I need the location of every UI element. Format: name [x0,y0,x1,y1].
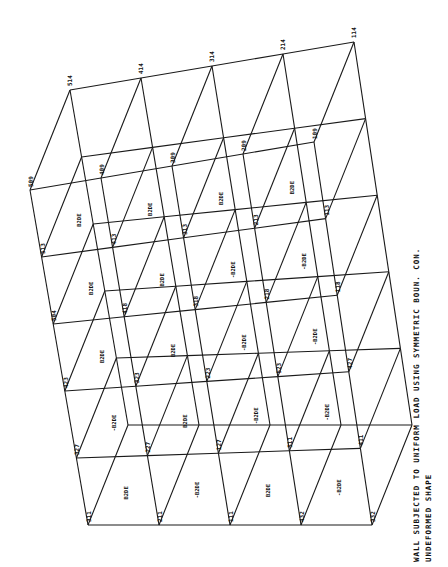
node-labels: 5144143142141145094093092091095134133132… [27,27,376,522]
svg-text:209: 209 [240,140,247,151]
svg-text:213: 213 [252,214,259,225]
svg-text:311: 311 [85,511,92,522]
svg-text:332: 332 [369,511,376,522]
svg-text:418: 418 [121,303,128,314]
svg-text:427: 427 [346,358,353,369]
svg-text:313: 313 [181,224,188,235]
svg-text:111: 111 [227,511,234,522]
svg-text:414: 414 [137,63,144,74]
svg-text:B2DE: B2DE [76,213,82,226]
svg-text:318: 318 [192,295,199,306]
svg-text:-B2DE: -B2DE [336,479,342,496]
svg-text:411: 411 [357,434,364,445]
svg-text:B2DE: B2DE [289,181,295,194]
svg-text:413: 413 [110,233,117,244]
figure-subcaption: UNDEFORMED SHAPE [424,474,433,562]
svg-text:223: 223 [204,367,211,378]
svg-text:B2DE: B2DE [159,273,165,286]
svg-text:423: 423 [62,377,69,388]
svg-text:211: 211 [156,511,163,522]
svg-text:-B2DE: -B2DE [111,415,117,432]
element-labels: B2DEB2DEB2DEB2DEB2DEB2DE-B2DE-B2DEB2DEB2… [76,181,341,499]
svg-text:B2DE: B2DE [100,350,106,363]
svg-text:B2DE: B2DE [265,484,271,497]
svg-text:-B2DE: -B2DE [253,408,259,425]
svg-text:114: 114 [350,27,357,38]
figure-caption: WALL SUBJECTED TO UNIFORM LOAD USING SYM… [412,248,421,562]
svg-text:127: 127 [215,439,222,450]
svg-text:B2DE: B2DE [88,282,94,295]
svg-text:-B2DE: -B2DE [324,404,330,421]
svg-text:409: 409 [98,164,105,175]
svg-text:227: 227 [144,441,151,452]
svg-text:432: 432 [298,511,305,522]
svg-text:B2DE: B2DE [123,486,129,499]
svg-text:214: 214 [279,39,286,50]
svg-text:B2DE: B2DE [171,344,177,357]
svg-text:B2DE: B2DE [218,192,224,205]
svg-text:118: 118 [334,281,341,292]
svg-text:-B2DE: -B2DE [194,482,200,499]
svg-text:-B2DE: -B2DE [301,253,307,270]
svg-text:523: 523 [275,362,282,373]
svg-text:109: 109 [311,128,318,139]
svg-text:B2DE: B2DE [147,203,153,216]
svg-text:509: 509 [27,176,34,187]
svg-text:-B2DE: -B2DE [242,335,248,352]
svg-text:-B2DE: -B2DE [313,329,319,346]
svg-text:511: 511 [286,437,293,448]
svg-text:314: 314 [208,51,215,62]
svg-text:B2DE: B2DE [182,414,188,427]
finite-element-mesh-plot: 5144143142141145094093092091095134133132… [0,0,448,567]
svg-text:113: 113 [323,204,330,215]
svg-text:513: 513 [39,243,46,254]
svg-text:514: 514 [66,75,73,86]
svg-text:-B2DE: -B2DE [230,262,236,279]
svg-text:309: 309 [169,152,176,163]
svg-text:323: 323 [133,372,140,383]
svg-text:504: 504 [50,310,57,321]
svg-text:218: 218 [263,288,270,299]
svg-text:327: 327 [73,444,80,455]
